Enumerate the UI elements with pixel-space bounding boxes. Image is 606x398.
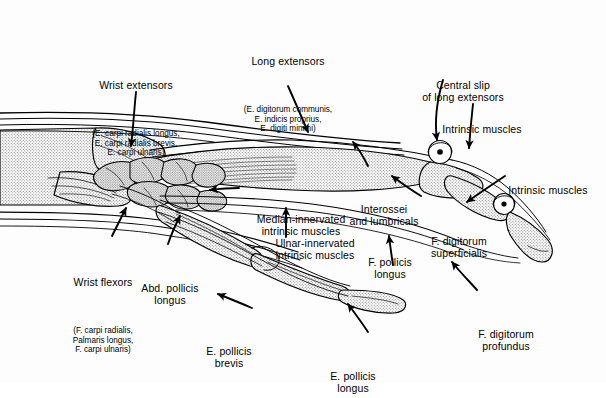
label-intrinsic-muscles-right-main: Intrinsic muscles [488,184,606,196]
label-abd-pollicis-longus-main: Abd. pollicis longus [118,282,222,307]
arrow-wrist-flexors [112,208,126,236]
label-e-pollicis-longus: E. pollicis longus [303,332,403,398]
label-f-digitorum-profundus-main: F. digitorum profundus [451,328,561,353]
label-e-pollicis-brevis-main: E. pollicis brevis [179,345,279,370]
label-intrinsic-muscles-upper-main: Intrinsic muscles [412,123,552,135]
label-f-pollicis-longus: F. pollicis longus [340,218,440,318]
label-long-extensors-sub: (E. digitorum communis, E. indicis propr… [198,105,378,134]
arrow-e-pollicis-brevis [218,294,252,308]
label-e-pollicis-longus-main: E. pollicis longus [303,370,403,395]
label-long-extensors-main: Long extensors [198,55,378,67]
label-f-digitorum-profundus: F. digitorum profundus [451,290,561,390]
label-long-extensors: Long extensors (E. digitorum communis, E… [198,17,378,172]
label-e-pollicis-brevis: E. pollicis brevis [179,307,279,398]
label-f-pollicis-longus-main: F. pollicis longus [340,256,440,281]
